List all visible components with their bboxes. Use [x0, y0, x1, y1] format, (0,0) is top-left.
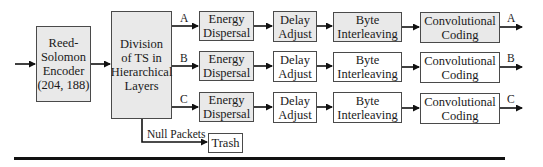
- energy-dispersal-c-block: Energy Dispersal: [199, 92, 254, 122]
- bottom-rule: [14, 157, 505, 160]
- ts-division-block: Division of TS in Hierarchical Layers: [111, 11, 172, 119]
- delay-adjust-a-block: Delay Adjust: [273, 11, 317, 42]
- byte-interleaving-a-block: Byte Interleaving: [333, 12, 402, 42]
- convolutional-coding-c-block: Convolutional Coding: [420, 93, 500, 124]
- layer-a-output-label: A: [507, 12, 515, 24]
- delay-adjust-b-block: Delay Adjust: [273, 51, 317, 82]
- layer-c-input-label: C: [180, 93, 188, 105]
- byte-interleaving-c-block: Byte Interleaving: [333, 92, 402, 123]
- layer-b-input-label: B: [180, 52, 188, 64]
- layer-c-output-label: C: [507, 93, 515, 105]
- convolutional-coding-b-block: Convolutional Coding: [420, 52, 500, 83]
- layer-b-output-label: B: [507, 52, 515, 64]
- convolutional-coding-a-block: Convolutional Coding: [420, 12, 500, 43]
- reed-solomon-encoder-block: Reed- Solomon Encoder (204, 188): [36, 26, 91, 102]
- energy-dispersal-b-block: Energy Dispersal: [199, 51, 254, 81]
- null-packets-label: Null Packets: [147, 128, 205, 140]
- delay-adjust-c-block: Delay Adjust: [273, 92, 317, 123]
- layer-a-input-label: A: [180, 12, 188, 24]
- byte-interleaving-b-block: Byte Interleaving: [333, 52, 402, 82]
- trash-block: Trash: [208, 133, 243, 153]
- energy-dispersal-a-block: Energy Dispersal: [199, 11, 254, 41]
